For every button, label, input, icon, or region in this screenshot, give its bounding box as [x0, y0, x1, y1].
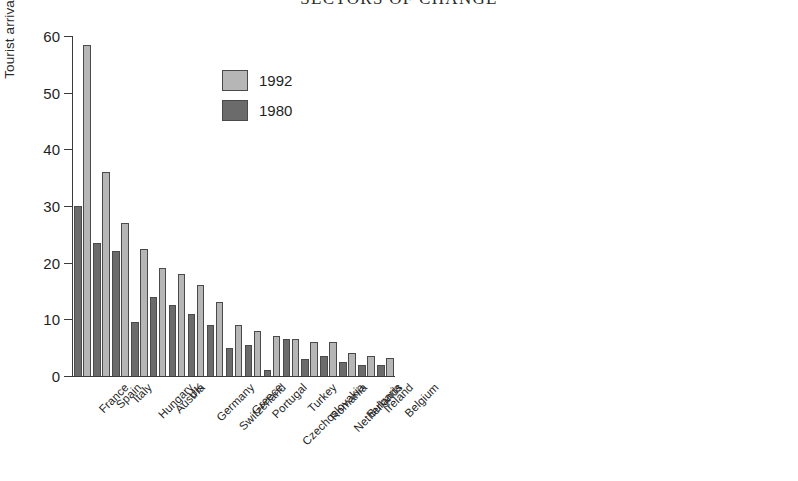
- bar-switzerland-1980: [207, 325, 215, 376]
- bar-group: [376, 36, 395, 376]
- bar-group: [300, 36, 319, 376]
- y-tick-label: 40: [43, 141, 60, 158]
- bar-austria-1992: [159, 268, 167, 376]
- bar-netherlands-1980: [320, 356, 328, 376]
- bar-uk-1980: [169, 305, 177, 376]
- bar-greece-1992: [235, 325, 243, 376]
- y-tick-label: 20: [43, 255, 60, 272]
- bar-portugal-1980: [245, 345, 253, 376]
- y-tick-label: 50: [43, 85, 60, 102]
- y-tick-20: 20: [64, 263, 73, 264]
- bar-group: [73, 36, 92, 376]
- bar-czechoslovakia-1992: [273, 336, 281, 376]
- bar-greece-1980: [226, 348, 234, 376]
- bar-spain-1992: [102, 172, 110, 376]
- legend-label-1980: 1980: [259, 102, 292, 119]
- bar-belgium-1980: [377, 365, 385, 376]
- bar-group: [111, 36, 130, 376]
- bar-group: [92, 36, 111, 376]
- bar-uk-1992: [178, 274, 186, 376]
- y-tick-0: 0: [64, 376, 73, 377]
- y-tick-40: 40: [64, 149, 73, 150]
- bar-turkey-1980: [283, 339, 291, 376]
- bar-hungary-1992: [140, 249, 148, 377]
- bar-group: [149, 36, 168, 376]
- bar-france-1992: [83, 45, 91, 377]
- chart-panel-europe: Tourist arrivals (millions) 010203040506…: [0, 0, 430, 481]
- y-tick-30: 30: [64, 206, 73, 207]
- bar-turkey-1992: [292, 339, 300, 376]
- y-tick-label: 0: [52, 368, 60, 385]
- bar-italy-1980: [112, 251, 120, 376]
- bar-hungary-1980: [131, 322, 139, 376]
- y-tick-label: 60: [43, 28, 60, 45]
- legend: 1992 1980: [222, 70, 292, 121]
- bar-romania-1980: [301, 359, 309, 376]
- bar-austria-1980: [150, 297, 158, 376]
- chart-panel-americas-asia: 0102030405060 USAMexicoCanadaChinaHong K…: [430, 0, 798, 481]
- bar-group: [338, 36, 357, 376]
- y-tick-label: 10: [43, 311, 60, 328]
- bar-portugal-1992: [254, 331, 262, 376]
- x-axis-labels-europe: FranceSpainItalyHungaryAustriaUKGermanyS…: [73, 376, 395, 476]
- bar-netherlands-1992: [329, 342, 337, 376]
- bar-group: [168, 36, 187, 376]
- bar-group: [357, 36, 376, 376]
- y-axis-label: Tourist arrivals (millions): [2, 0, 17, 120]
- y-tick-10: 10: [64, 319, 73, 320]
- bar-italy-1992: [121, 223, 129, 376]
- bar-spain-1980: [93, 243, 101, 376]
- legend-swatch-1992-icon: [222, 70, 248, 91]
- bar-switzerland-1992: [216, 302, 224, 376]
- bar-group: [319, 36, 338, 376]
- bar-belgium-1992: [386, 358, 394, 376]
- bar-group: [130, 36, 149, 376]
- y-tick-label: 30: [43, 198, 60, 215]
- legend-item-1980: 1980: [222, 100, 292, 121]
- y-tick-50: 50: [64, 93, 73, 94]
- bar-ireland-1992: [367, 356, 375, 376]
- bar-ireland-1980: [358, 365, 366, 376]
- bar-group: [187, 36, 206, 376]
- bar-germany-1980: [188, 314, 196, 376]
- bar-france-1980: [74, 206, 82, 376]
- legend-swatch-1980-icon: [222, 100, 248, 121]
- legend-label-1992: 1992: [259, 72, 292, 89]
- bar-bulgaria-1980: [339, 362, 347, 376]
- bar-germany-1992: [197, 285, 205, 376]
- y-tick-60: 60: [64, 36, 73, 37]
- legend-item-1992: 1992: [222, 70, 292, 91]
- bar-bulgaria-1992: [348, 353, 356, 376]
- bar-romania-1992: [310, 342, 318, 376]
